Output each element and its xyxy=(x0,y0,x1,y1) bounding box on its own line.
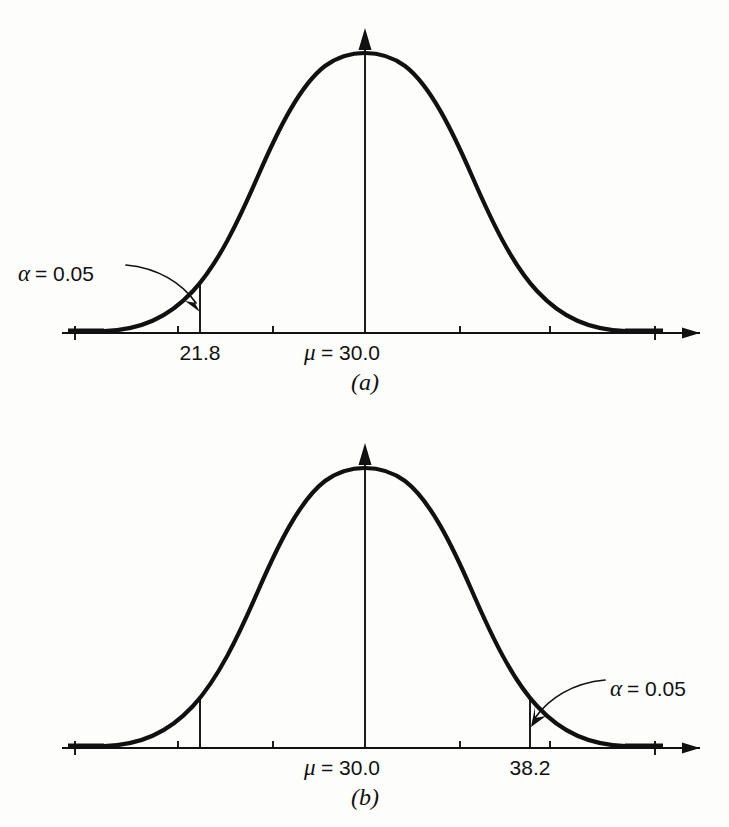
panel-b-caption: (b) xyxy=(351,784,379,810)
panel-b-critical-label: 38.2 xyxy=(510,756,551,779)
statistics-figure: α = 0.05 21.8 μ = 30.0 (a) xyxy=(0,0,729,827)
panel-b-mean-arrowhead xyxy=(359,443,372,465)
panel-b-mean-value: = 30.0 xyxy=(321,756,380,779)
panel-a-alpha-value: = 0.05 xyxy=(35,262,94,285)
panel-b-axis-arrowhead xyxy=(682,743,700,754)
panel-a-alpha-symbol: α xyxy=(18,261,31,286)
panel-b-alpha-symbol: α xyxy=(610,676,623,701)
panel-a-axis-arrowhead xyxy=(682,328,700,339)
panel-a-mean-arrowhead xyxy=(359,28,372,50)
panel-a-mean-value: = 30.0 xyxy=(321,341,380,364)
panel-b-alpha-value: = 0.05 xyxy=(627,677,686,700)
panel-b: α = 0.05 μ = 30.0 38.2 (b) xyxy=(62,443,700,810)
panel-a: α = 0.05 21.8 μ = 30.0 (a) xyxy=(18,28,700,395)
figure-canvas: α = 0.05 21.8 μ = 30.0 (a) xyxy=(0,0,729,827)
panel-b-mean-symbol: μ xyxy=(303,755,316,780)
panel-a-critical-label: 21.8 xyxy=(180,341,221,364)
panel-a-caption: (a) xyxy=(351,369,379,395)
panel-a-mean-symbol: μ xyxy=(303,340,316,365)
